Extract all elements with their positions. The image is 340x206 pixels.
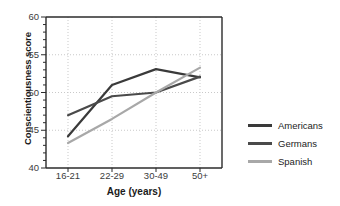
legend-item[interactable]: Germans	[248, 136, 338, 151]
x-tick-label: 30-49	[144, 170, 168, 181]
gridlines	[46, 17, 222, 168]
legend-item[interactable]: Spanish	[248, 154, 338, 169]
legend-label: Americans	[278, 120, 323, 131]
legend-item[interactable]: Americans	[248, 118, 338, 133]
x-tick-label: 22-29	[100, 170, 124, 181]
y-tick-label: 60	[15, 12, 39, 22]
y-tick-label: 50	[15, 88, 39, 98]
y-tick-label: 55	[15, 50, 39, 60]
x-axis-title: Age (years)	[44, 186, 224, 197]
legend-label: Germans	[278, 138, 317, 149]
legend-swatch-icon	[248, 142, 272, 145]
y-axis-ticks	[41, 17, 46, 168]
legend-swatch-icon	[248, 160, 272, 163]
chart-legend: AmericansGermansSpanish	[248, 118, 338, 172]
chart-container: Conscientiousness score 6055504540 16-21…	[0, 0, 340, 206]
series-line-spanish	[68, 68, 200, 144]
y-tick-label: 45	[15, 125, 39, 135]
plot-svg	[0, 0, 340, 206]
data-series	[68, 68, 200, 144]
x-tick-label: 50+	[192, 170, 208, 181]
series-line-germans	[68, 77, 200, 116]
legend-label: Spanish	[278, 156, 312, 167]
x-tick-label: 16-21	[56, 170, 80, 181]
legend-swatch-icon	[248, 124, 272, 127]
y-tick-label: 40	[15, 163, 39, 173]
